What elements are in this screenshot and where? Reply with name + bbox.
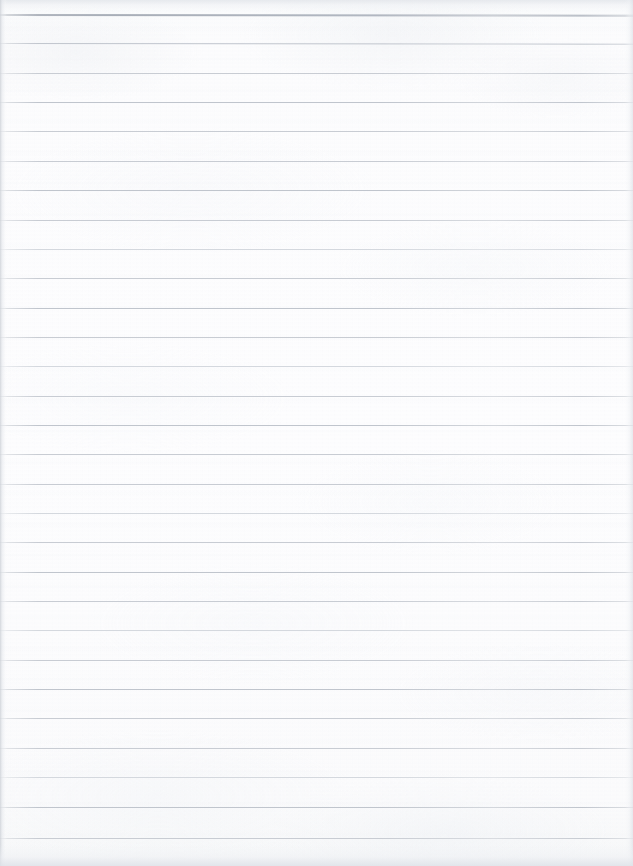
page-body-text	[0, 0, 633, 866]
scanned-page	[0, 0, 633, 866]
